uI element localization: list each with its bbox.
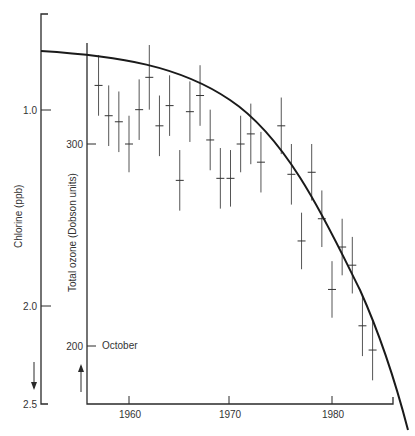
x-tick-label: 1980 [322,409,345,420]
x-tick-label: 1970 [219,409,242,420]
ozone-axis-title: Total ozone (Dobson units) [67,173,78,292]
data-point [135,79,143,140]
data-point [166,75,174,136]
data-point [95,55,103,116]
x-tick-label: 1960 [119,409,142,420]
ozone-tick-label: 200 [66,341,83,352]
data-point [105,85,113,146]
data-point [298,213,306,270]
data-point [237,116,245,173]
data-point [287,144,295,205]
x-axis: 1960 1970 1980 [119,396,345,420]
data-point [328,261,336,318]
chlorine-tick-label: 2.5 [23,399,37,410]
data-point [358,296,366,357]
chlorine-axis-title: Chlorine (ppb) [13,185,24,248]
data-point [155,96,163,157]
ozone-data-points [95,45,377,380]
data-point [348,237,356,294]
chlorine-tick-label: 2.0 [23,301,37,312]
data-point [196,65,204,126]
ozone-tick-label: 300 [66,139,83,150]
down-arrow-head-icon [31,382,37,390]
data-point [176,150,184,211]
data-point [125,116,133,173]
data-point [145,45,153,110]
ozone-chlorine-chart: 1.0 2.0 2.5 Chlorine (ppb) 300 200 Octob… [0,0,415,436]
chlorine-axis: 1.0 2.0 2.5 Chlorine (ppb) [13,14,51,410]
data-point [227,150,235,207]
october-label: October [102,340,138,351]
chlorine-tick-label: 1.0 [23,105,37,116]
up-arrow-head-icon [78,364,84,372]
data-point [257,132,265,193]
data-point [115,91,123,152]
chlorine-curve [41,51,408,430]
data-point [216,148,224,209]
ozone-axis: 300 200 October Total ozone (Dobson unit… [66,43,393,404]
chlorine-axis-line [41,14,48,404]
data-point [186,81,194,142]
data-point [206,110,214,171]
